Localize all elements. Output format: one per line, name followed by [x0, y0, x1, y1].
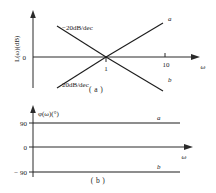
magnitude-x-axis-label: ω [201, 63, 206, 71]
figure-caption-b: ( b ) [0, 176, 206, 185]
phase-y-axis-arrow [30, 105, 36, 113]
phase-ytick-label-90: 90 [20, 120, 28, 128]
phase-ytick-label-0: 0 [24, 144, 28, 152]
magnitude-plot-svg: 0 1 10 ω −20dB/dec 20dB/dec a b [0, 0, 216, 95]
magnitude-curve-label-b: b [168, 76, 172, 84]
bode-plot-figure: 0 1 10 ω −20dB/dec 20dB/dec a b L(ω)(dB)… [0, 0, 216, 193]
slope-annotation-negative: −20dB/dec [62, 24, 93, 32]
phase-y-axis-label: φ(ω)(°) [38, 110, 59, 118]
magnitude-y-axis-arrow [30, 10, 36, 18]
magnitude-ytick-label-0: 0 [23, 54, 27, 62]
figure-caption-a: ( a ) [0, 85, 204, 94]
phase-curve-label-a: a [157, 114, 161, 122]
magnitude-xtick-label-10: 10 [163, 61, 171, 69]
magnitude-plot-panel: 0 1 10 ω −20dB/dec 20dB/dec a b L(ω)(dB) [0, 0, 216, 95]
phase-curve-label-b: b [157, 163, 161, 171]
magnitude-xtick-label-1: 1 [104, 65, 108, 73]
phase-x-axis-arrow [184, 144, 193, 150]
magnitude-x-axis-arrow [191, 54, 200, 60]
magnitude-curve-label-a: a [168, 15, 172, 23]
curve-a-upper-segment [106, 23, 163, 57]
phase-x-axis-label: ω [182, 153, 187, 161]
magnitude-y-axis-label: L(ω)(dB) [13, 36, 21, 62]
